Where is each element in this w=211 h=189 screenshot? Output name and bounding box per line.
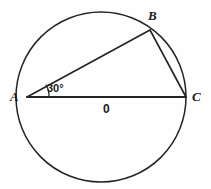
geometry-figure: A B C 30° 0 [0, 0, 211, 189]
point-label-b: B [148, 9, 157, 22]
angle-measure-label: 30° [47, 83, 64, 94]
chord-bc [150, 30, 186, 97]
chord-ab [27, 30, 150, 97]
point-label-c: C [192, 90, 201, 103]
center-point-label: 0 [103, 103, 110, 115]
geometry-canvas [0, 0, 211, 189]
point-label-a: A [10, 90, 19, 103]
